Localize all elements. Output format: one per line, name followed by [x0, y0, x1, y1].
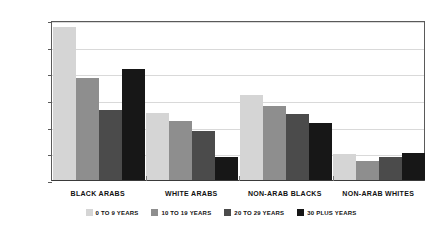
bar — [286, 114, 309, 180]
bar — [215, 157, 238, 180]
bar — [379, 157, 402, 180]
bar — [146, 113, 169, 180]
bar-chart: PERCENTAGE 0.05.010.015.020.025.030.0 BL… — [0, 0, 442, 238]
bar — [333, 154, 356, 180]
x-axis-category-label: WHITE ARABS — [145, 190, 239, 197]
legend-label: 20 TO 29 YEARS — [234, 210, 284, 216]
bar — [263, 106, 286, 180]
bar — [76, 78, 99, 180]
legend-swatch — [297, 209, 304, 216]
bar-group — [146, 22, 238, 180]
plot-area: 0.05.010.015.020.025.030.0 — [51, 21, 425, 181]
x-axis-category-label: BLACK ARABS — [51, 190, 145, 197]
bar — [122, 69, 145, 180]
bar — [192, 131, 215, 180]
bar — [356, 161, 379, 180]
bar — [169, 121, 192, 180]
bar — [53, 27, 76, 180]
legend-label: 30 PLUS YEARS — [307, 210, 356, 216]
bar — [240, 95, 263, 180]
bars-layer — [52, 22, 424, 180]
bar-group — [240, 22, 332, 180]
legend-swatch — [151, 209, 158, 216]
bar — [309, 123, 332, 180]
legend-item: 30 PLUS YEARS — [297, 209, 356, 216]
legend-swatch — [86, 209, 93, 216]
x-axis-separator-tick — [146, 176, 147, 181]
legend-item: 10 TO 19 YEARS — [151, 209, 211, 216]
x-axis-separator-tick — [239, 176, 240, 181]
bar — [99, 110, 122, 180]
x-axis-category-label: NON-ARAB WHITES — [332, 190, 426, 197]
y-tick-mark — [48, 182, 52, 183]
legend: 0 TO 9 YEARS10 TO 19 YEARS20 TO 29 YEARS… — [0, 209, 442, 216]
bar-group — [333, 22, 425, 180]
legend-item: 20 TO 29 YEARS — [224, 209, 284, 216]
legend-label: 0 TO 9 YEARS — [96, 210, 139, 216]
legend-label: 10 TO 19 YEARS — [161, 210, 211, 216]
bar — [402, 153, 425, 180]
bar-group — [53, 22, 145, 180]
x-axis-separator-tick — [333, 176, 334, 181]
x-axis-category-label: NON-ARAB BLACKS — [238, 190, 332, 197]
legend-swatch — [224, 209, 231, 216]
legend-item: 0 TO 9 YEARS — [86, 209, 139, 216]
